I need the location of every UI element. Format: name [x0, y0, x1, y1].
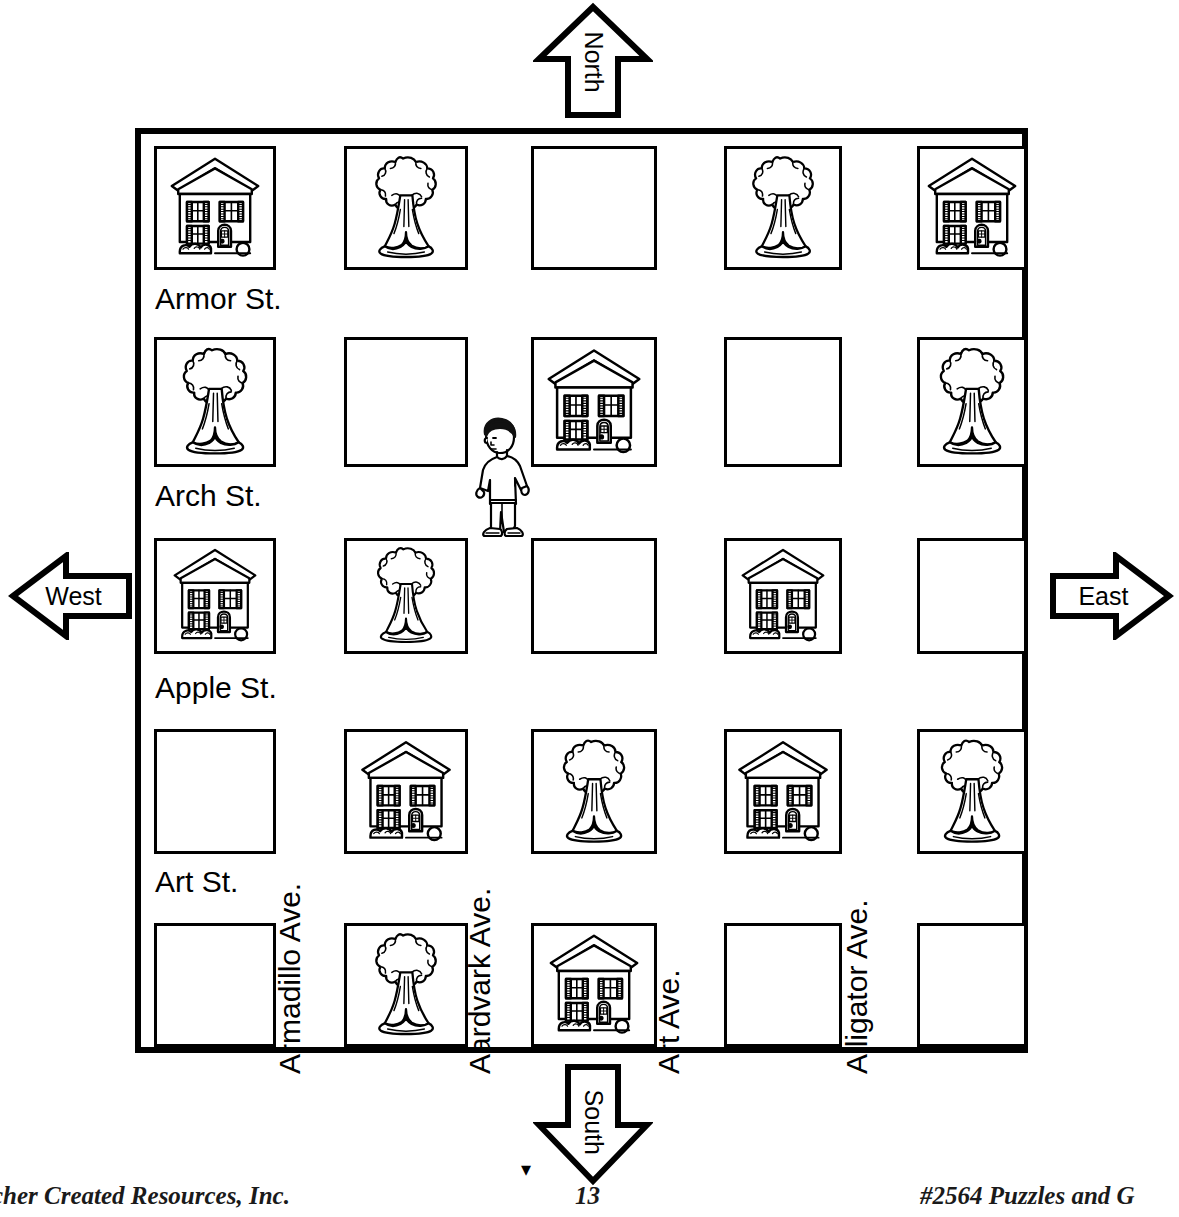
map-block-r3-c1[interactable]	[154, 538, 276, 654]
page-footer: cher Created Resources, Inc. 13 #2564 Pu…	[0, 1182, 1179, 1217]
map-block-r2-c5[interactable]	[917, 337, 1027, 467]
map-block-r4-c3[interactable]	[531, 729, 657, 854]
street-label-art-st: Art St.	[155, 867, 238, 897]
compass-east: East	[1048, 552, 1174, 640]
map-block-r1-c4[interactable]	[724, 146, 842, 270]
compass-north-label: North	[579, 32, 608, 93]
tree-icon	[171, 343, 260, 461]
map-block-r5-c2[interactable]	[344, 923, 468, 1047]
map-block-r4-c5[interactable]	[917, 729, 1027, 854]
street-label-armor-st: Armor St.	[155, 284, 282, 314]
map-block-r5-c1[interactable]	[154, 923, 276, 1047]
map-block-r4-c1[interactable]	[154, 729, 276, 854]
map-block-r1-c1[interactable]	[154, 146, 276, 270]
map-block-r3-c2[interactable]	[344, 538, 468, 654]
map-block-r3-c3[interactable]	[531, 538, 657, 654]
map-block-r5-c3[interactable]	[531, 923, 657, 1047]
house-icon	[738, 546, 828, 647]
neighborhood-map: Armor St.Arch St.Apple St.Art St.Armadil…	[135, 128, 1028, 1053]
compass-south: South	[533, 1062, 653, 1186]
house-icon	[924, 154, 1021, 262]
footer-publisher: cher Created Resources, Inc.	[0, 1182, 290, 1210]
map-block-r3-c5[interactable]	[917, 538, 1027, 654]
tree-icon	[364, 929, 449, 1042]
house-icon	[734, 737, 832, 846]
map-block-r4-c4[interactable]	[724, 729, 842, 854]
walking-boy-icon	[471, 416, 531, 541]
map-block-r1-c5[interactable]	[917, 146, 1027, 270]
house-icon	[544, 346, 645, 459]
map-block-r3-c4[interactable]	[724, 538, 842, 654]
compass-west-label: West	[45, 582, 102, 611]
stray-mark: ▾	[521, 1163, 533, 1175]
compass-west: West	[8, 552, 134, 640]
tree-icon	[551, 735, 637, 849]
tree-icon	[364, 152, 449, 265]
map-block-r5-c4[interactable]	[724, 923, 842, 1047]
street-label-arch-st: Arch St.	[155, 481, 262, 511]
map-block-r1-c3[interactable]	[531, 146, 657, 270]
map-block-r2-c4[interactable]	[724, 337, 842, 467]
map-block-r2-c1[interactable]	[154, 337, 276, 467]
map-block-r5-c5[interactable]	[917, 923, 1027, 1047]
map-block-r2-c3[interactable]	[531, 337, 657, 467]
compass-east-label: East	[1078, 582, 1128, 611]
map-block-r2-c2[interactable]	[344, 337, 468, 467]
tree-icon	[929, 735, 1015, 849]
avenue-label-armadillo-ave: Armadillo Ave.	[275, 883, 305, 1074]
avenue-label-art-ave: Art Ave.	[654, 969, 684, 1074]
house-icon	[546, 931, 643, 1039]
tree-icon	[741, 152, 826, 265]
map-block-r4-c2[interactable]	[344, 729, 468, 854]
house-icon	[170, 546, 260, 647]
map-block-r1-c2[interactable]	[344, 146, 468, 270]
compass-south-label: South	[579, 1090, 608, 1155]
footer-page-number: 13	[575, 1182, 600, 1210]
tree-icon	[366, 543, 446, 649]
compass-north: North	[533, 2, 653, 120]
tree-icon	[928, 343, 1017, 461]
avenue-label-alligator-ave: Alligator Ave.	[842, 899, 872, 1074]
footer-product-code: #2564 Puzzles and G	[920, 1182, 1135, 1210]
house-icon	[167, 154, 264, 262]
house-icon	[357, 737, 455, 846]
avenue-label-aardvark-ave: Aardvark Ave.	[465, 888, 495, 1074]
street-label-apple-st: Apple St.	[155, 673, 277, 703]
